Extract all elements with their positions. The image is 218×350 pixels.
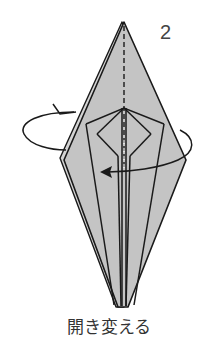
step-number: 2 (160, 22, 171, 42)
origami-diagram (0, 0, 218, 350)
step-caption: 開き変える (0, 317, 218, 337)
